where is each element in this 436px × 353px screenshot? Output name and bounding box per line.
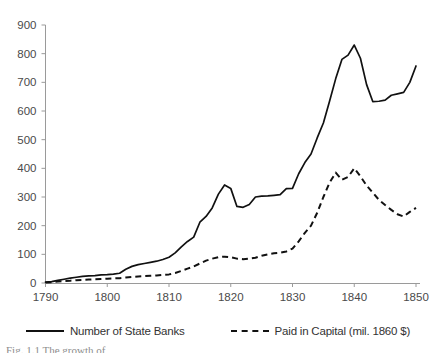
y-axis	[42, 25, 46, 283]
legend-swatch-dashed-line	[231, 330, 269, 332]
y-tick-label: 900	[17, 19, 36, 31]
y-tick-label: 700	[17, 76, 36, 88]
legend-item-number-of-state-banks: Number of State Banks	[26, 325, 185, 337]
figure-caption: Fig. 1.1 The growth of	[6, 344, 426, 353]
y-tick-label: 500	[17, 134, 36, 146]
x-tick-label: 1810	[156, 291, 182, 303]
legend-label-number-of-state-banks: Number of State Banks	[70, 325, 185, 337]
legend-label-paid-in-capital: Paid in Capital (mil. 1860 $)	[275, 325, 410, 337]
y-axis-tick-labels: 0100200300400500600700800900	[17, 19, 36, 289]
chart-plot-area: 0100200300400500600700800900 17901800181…	[0, 0, 436, 353]
x-tick-label: 1840	[341, 291, 367, 303]
series-line-dashed	[46, 168, 417, 282]
y-tick-label: 600	[17, 105, 36, 117]
x-tick-label: 1850	[403, 291, 429, 303]
y-tick-label: 800	[17, 48, 36, 60]
legend-swatch-solid-line	[26, 330, 64, 332]
chart-legend: Number of State Banks Paid in Capital (m…	[0, 320, 436, 342]
data-series-layer	[46, 45, 417, 282]
y-tick-label: 100	[17, 248, 36, 260]
x-tick-label: 1800	[94, 291, 120, 303]
y-tick-label: 300	[17, 191, 36, 203]
x-axis	[46, 283, 421, 287]
x-tick-label: 1830	[280, 291, 306, 303]
x-tick-label: 1790	[33, 291, 59, 303]
series-line-solid	[46, 45, 417, 282]
figure-container: 0100200300400500600700800900 17901800181…	[0, 0, 436, 353]
y-tick-label: 0	[30, 277, 36, 289]
x-tick-label: 1820	[218, 291, 244, 303]
y-tick-label: 200	[17, 220, 36, 232]
legend-item-paid-in-capital: Paid in Capital (mil. 1860 $)	[231, 325, 410, 337]
x-axis-tick-labels: 1790180018101820183018401850	[33, 291, 429, 303]
y-tick-label: 400	[17, 162, 36, 174]
y-axis-ticks	[42, 25, 46, 283]
